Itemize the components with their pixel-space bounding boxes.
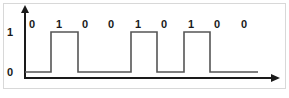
bit-label-8: 0 [210,19,224,30]
bit-label-7: 1 [184,19,198,30]
bit-label-4: 0 [104,19,118,30]
signal-trace [25,32,258,72]
bit-label-9: 0 [237,19,251,30]
bit-label-2: 1 [52,19,66,30]
bit-label-5: 1 [131,19,145,30]
bit-label-1: 0 [25,19,39,30]
axis-tick-label-low: 0 [4,67,16,78]
axis-tick-label-high: 1 [4,27,16,38]
amplitude-axis [21,5,29,78]
amplitude-axis-arrow-icon [21,5,29,13]
bit-label-3: 0 [78,19,92,30]
time-axis [24,74,280,82]
bit-label-6: 0 [157,19,171,30]
waveform-figure: 1 0 0 1 0 0 1 0 1 0 0 [0,0,289,98]
time-axis-arrow-icon [271,74,280,82]
waveform-plot [0,0,289,98]
